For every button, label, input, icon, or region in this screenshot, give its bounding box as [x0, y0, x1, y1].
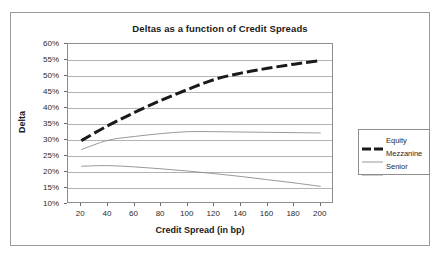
x-axis-tick-label: 120 — [207, 209, 220, 218]
legend-item-equity[interactable]: Equity — [362, 134, 428, 147]
series-line-senior — [81, 166, 320, 187]
series-lines — [68, 44, 334, 204]
y-axis-tick-label: 50% — [25, 71, 59, 80]
legend: EquityMezzanineSenior — [358, 129, 430, 175]
legend-swatch-icon — [362, 164, 383, 170]
series-line-mezzanine — [81, 132, 320, 150]
x-axis-tick-label: 80 — [156, 209, 165, 218]
legend-label: Mezzanine — [386, 150, 422, 158]
x-axis-tick-label: 60 — [129, 209, 138, 218]
y-axis-tick-label: 55% — [25, 55, 59, 64]
legend-item-senior[interactable]: Senior — [362, 160, 428, 173]
y-axis-tick-label: 15% — [25, 183, 59, 192]
legend-label: Senior — [386, 163, 408, 171]
legend-swatch-icon — [362, 151, 383, 157]
legend-item-mezzanine[interactable]: Mezzanine — [362, 147, 428, 160]
x-axis-tick-label: 180 — [286, 209, 299, 218]
y-axis-tick-label: 35% — [25, 119, 59, 128]
x-axis-tick-label: 40 — [102, 209, 111, 218]
x-axis-tick-label: 20 — [76, 209, 85, 218]
y-axis-tick-label: 40% — [25, 103, 59, 112]
y-axis-tick-label: 20% — [25, 167, 59, 176]
chart-title: Deltas as a function of Credit Spreads — [11, 23, 429, 34]
x-axis-tick-label: 200 — [313, 209, 326, 218]
x-axis-tick-label: 140 — [233, 209, 246, 218]
y-axis-tick-mark — [64, 203, 67, 204]
x-axis-tick-label: 160 — [260, 209, 273, 218]
x-axis-tick-label: 100 — [180, 209, 193, 218]
legend-swatch-icon — [362, 138, 383, 144]
y-axis-tick-label: 45% — [25, 87, 59, 96]
y-axis-tick-label: 30% — [25, 135, 59, 144]
x-axis-title: Credit Spread (in bp) — [67, 225, 333, 235]
legend-label: Equity — [386, 137, 407, 145]
y-axis-tick-label: 25% — [25, 151, 59, 160]
y-axis-tick-label: 10% — [25, 199, 59, 208]
series-line-equity — [81, 61, 320, 141]
y-axis-tick-label: 60% — [25, 39, 59, 48]
chart-container: Deltas as a function of Credit Spreads D… — [10, 12, 430, 246]
plot-area — [67, 43, 333, 203]
